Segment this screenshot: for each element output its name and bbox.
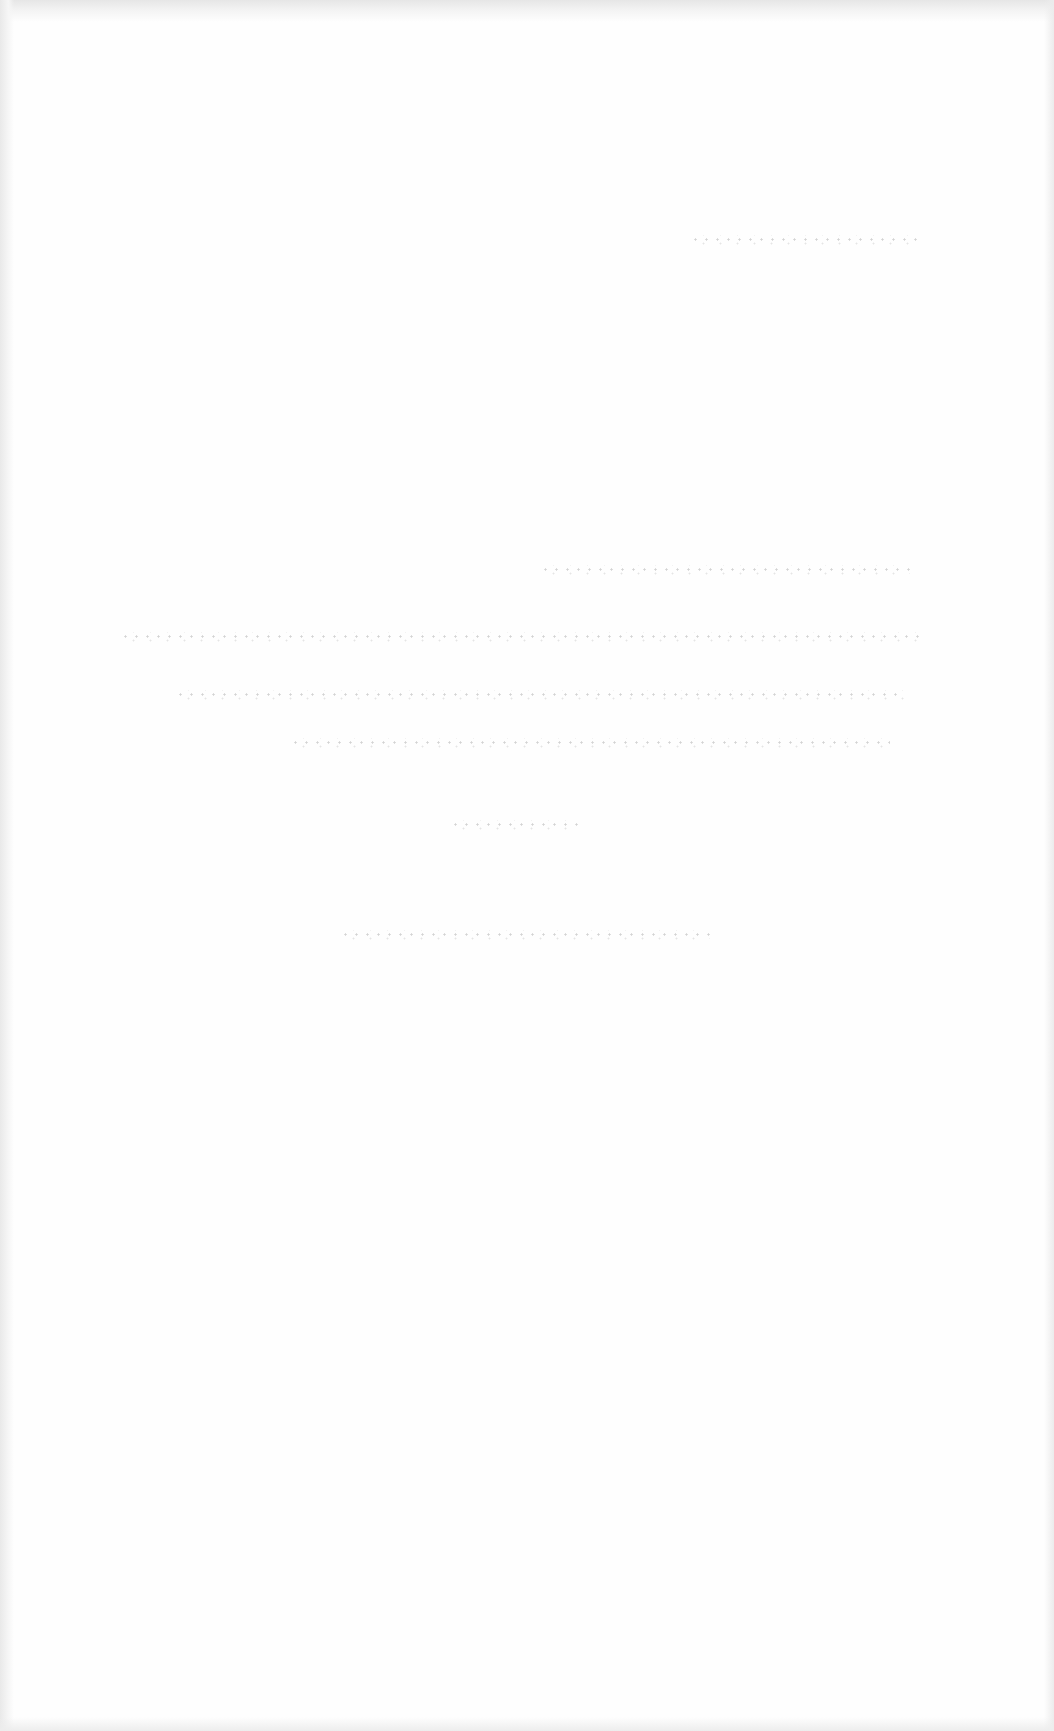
- bleed-through-line: [290, 738, 890, 748]
- scan-edge-right: [1044, 0, 1054, 1731]
- scan-edge-left: [0, 0, 14, 1731]
- scanned-page: [0, 0, 1054, 1731]
- bleed-through-line: [540, 565, 910, 575]
- bleed-through-line: [120, 632, 920, 642]
- bleed-through-line: [450, 820, 580, 830]
- bleed-through-line: [175, 690, 905, 700]
- bleed-through-line: [340, 930, 710, 940]
- scan-edge-bottom: [0, 1717, 1054, 1731]
- bleed-through-line: [690, 235, 920, 245]
- scan-edge-top: [0, 0, 1054, 22]
